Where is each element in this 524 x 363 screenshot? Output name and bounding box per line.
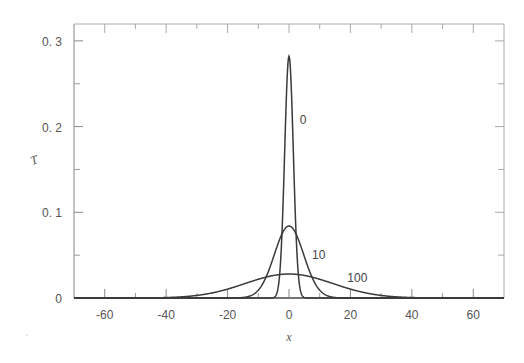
x-tick-label: -20: [219, 308, 237, 322]
stray-dot: [26, 334, 28, 336]
curve-label-0: 0: [300, 113, 307, 127]
curve-label-100: 100: [347, 271, 367, 285]
x-axis-label: x: [285, 330, 292, 344]
x-tick-label: -60: [96, 308, 114, 322]
curve-label-10: 10: [312, 248, 326, 262]
plot-frame: [74, 24, 504, 298]
y-tick-label: 0. 2: [42, 121, 62, 135]
curve-labels: 010100: [300, 113, 368, 285]
y-axis-label: T: [28, 152, 40, 168]
curves: [74, 56, 504, 298]
curve-10: [74, 226, 504, 298]
y-axis: 00. 10. 20. 3: [42, 35, 504, 306]
x-tick-label: 0: [286, 308, 293, 322]
curve-0: [74, 56, 504, 298]
x-tick-label: 60: [467, 308, 481, 322]
x-tick-label: -40: [157, 308, 175, 322]
x-tick-label: 20: [344, 308, 358, 322]
y-tick-label: 0: [55, 292, 62, 306]
chart: -60-40-200204060 00. 10. 20. 3 010100 x …: [0, 0, 524, 363]
y-tick-label: 0. 3: [42, 35, 62, 49]
x-tick-label: 40: [405, 308, 419, 322]
y-tick-label: 0. 1: [42, 206, 62, 220]
